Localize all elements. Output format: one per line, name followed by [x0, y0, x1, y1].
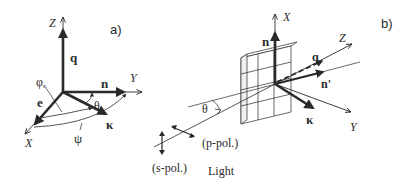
y-axis-label: Y: [130, 71, 138, 85]
theta-label: θ: [94, 99, 100, 113]
sample-plate: [241, 42, 297, 124]
light-label: Light: [208, 164, 235, 178]
theta-arc: [86, 93, 92, 103]
p-pol-label: (p-pol.): [202, 136, 238, 150]
panel-b-label: b): [381, 16, 393, 31]
theta-label-b: θ: [202, 102, 208, 116]
panel-a-label: a): [110, 22, 122, 37]
diagram-canvas: Z a) q φκ n Y e θ κ X ψ: [0, 0, 415, 192]
n-prime-label: n': [321, 77, 331, 91]
psi-label: ψ: [74, 131, 82, 146]
z-axis-label: Z: [49, 16, 56, 30]
x-axis-label: X: [24, 136, 33, 150]
kappa-label: κ: [106, 117, 114, 132]
q-label: q: [70, 50, 78, 65]
y-axis-label-b: Y: [350, 120, 358, 134]
e-label: e: [37, 95, 43, 110]
q-label-b: q: [312, 50, 319, 64]
phi-kappa-label: φκ: [36, 75, 47, 90]
panel-b: X b) n Z q n' θ κ Y (p-pol.) (s-pol.) Li…: [152, 10, 393, 178]
psi-leader: [80, 123, 82, 130]
z-axis-label-b: Z: [339, 31, 346, 45]
kappa-label-b: κ: [306, 112, 314, 127]
theta-arc-b: [212, 100, 220, 110]
n-label-b: n: [262, 34, 270, 49]
x-axis-label-b: X: [282, 10, 291, 24]
panel-a: Z a) q φκ n Y e θ κ X ψ: [24, 16, 142, 150]
s-polarization-arrow: [159, 131, 165, 155]
s-pol-label: (s-pol.): [152, 161, 187, 175]
n-label: n: [101, 76, 109, 91]
